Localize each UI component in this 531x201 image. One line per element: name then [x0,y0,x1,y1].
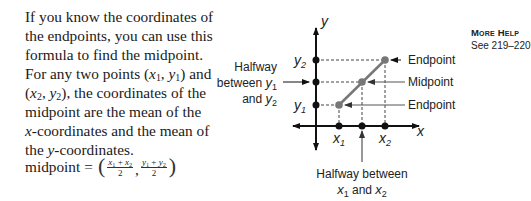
more-help-sidebar: More Help See 219–220 [471,27,531,52]
x-axis-label: x [416,123,425,139]
svg-text:between y1: between y1 [217,75,277,92]
y-axis-label: y [320,13,329,29]
svg-text:Halfway between: Halfway between [316,167,407,181]
endpoint-lower-label: Endpoint [408,98,456,112]
midpoint-diagram: y x y2 y1 x1 x2 Halfway between y1 and y… [0,0,531,201]
x1-label: x1 [332,130,345,148]
halfway-x-annotation: Halfway between x1 and x2 [316,131,407,199]
y2-label: y2 [293,52,306,70]
endpoint-upper-label: Endpoint [408,53,456,67]
midpoint-label: Midpoint [408,75,454,89]
more-help-title: More Help [471,27,531,39]
svg-text:and y2: and y2 [242,91,277,108]
x2-label: x2 [378,130,391,148]
page-reference: See 219–220 [471,39,531,52]
svg-text:Halfway: Halfway [234,60,277,74]
y1-label: y1 [293,97,306,115]
svg-text:x1 and x2: x1 and x2 [336,182,387,199]
